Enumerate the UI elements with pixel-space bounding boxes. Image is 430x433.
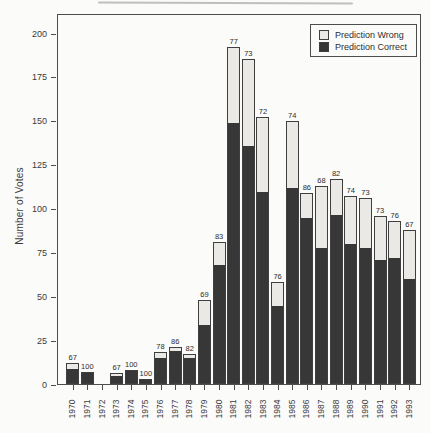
bar-stack <box>198 300 211 384</box>
x-tick <box>175 385 176 390</box>
x-tick <box>307 385 308 390</box>
bar-correct-segment <box>331 215 342 383</box>
x-tick <box>380 385 381 390</box>
y-tick-label: 25 <box>0 336 47 347</box>
y-tick <box>51 34 56 35</box>
x-tick-label: 1985 <box>286 391 299 427</box>
x-tick <box>292 385 293 390</box>
year-label: 1970 <box>68 400 78 419</box>
legend-item-wrong: Prediction Wrong <box>319 30 416 40</box>
bar-percent-label: 67 <box>396 220 422 229</box>
year-label: 1991 <box>375 400 385 419</box>
bar-stack <box>374 216 387 384</box>
bar-percent-label: 73 <box>352 188 378 197</box>
bar-percent-label: 67 <box>60 353 86 362</box>
x-tick-label: 1984 <box>271 391 284 427</box>
year-label: 1973 <box>112 400 122 419</box>
x-tick-label: 1975 <box>139 391 152 427</box>
bar-correct-segment <box>243 146 254 383</box>
x-tick <box>351 385 352 390</box>
bar-correct-segment <box>375 260 386 383</box>
x-tick-label: 1989 <box>344 391 357 427</box>
bar-correct-segment <box>360 248 371 383</box>
x-tick <box>278 385 279 390</box>
bar-stack <box>227 47 240 384</box>
bar-percent-label: 82 <box>323 169 349 178</box>
bar-percent-label: 73 <box>235 49 261 58</box>
y-tick-label: 150 <box>0 116 47 127</box>
x-tick-label: 1982 <box>242 391 255 427</box>
bar-percent-label: 100 <box>118 360 144 369</box>
bar-correct-segment <box>155 358 166 383</box>
x-tick <box>395 385 396 390</box>
year-label: 1971 <box>82 400 92 419</box>
x-tick-label: 1993 <box>403 391 416 427</box>
bar-correct-segment <box>184 358 195 383</box>
year-label: 1993 <box>404 400 414 419</box>
bar-stack <box>256 117 269 384</box>
bar-stack <box>344 196 357 384</box>
x-tick <box>146 385 147 390</box>
x-tick <box>321 385 322 390</box>
bar-correct-segment <box>345 244 356 383</box>
x-tick-label: 1970 <box>66 391 79 427</box>
year-label: 1990 <box>360 400 370 419</box>
bar-percent-label: 77 <box>221 37 247 46</box>
correct-swatch-icon <box>319 42 329 52</box>
bar-correct-segment <box>67 369 78 383</box>
bar-percent-label: 72 <box>250 107 276 116</box>
x-tick <box>409 385 410 390</box>
bar-correct-segment <box>257 192 268 383</box>
x-tick-label: 1971 <box>81 391 94 427</box>
figure: Number of Votes 0255075100125150175200 1… <box>0 0 430 433</box>
y-tick <box>51 341 56 342</box>
y-tick <box>51 297 56 298</box>
legend-item-correct: Prediction Correct <box>319 42 416 52</box>
bar-stack <box>403 230 416 384</box>
bar-stack <box>154 352 167 384</box>
bar-stack <box>81 372 94 384</box>
y-tick <box>51 165 56 166</box>
year-label: 1987 <box>316 400 326 419</box>
x-tick <box>161 385 162 390</box>
x-tick <box>336 385 337 390</box>
year-label: 1976 <box>156 400 166 419</box>
bar-correct-segment <box>82 373 93 383</box>
bar-correct-segment <box>214 265 225 383</box>
bar-percent-label: 100 <box>74 362 100 371</box>
year-label: 1974 <box>126 400 136 419</box>
bar-stack <box>330 179 343 384</box>
x-tick <box>87 385 88 390</box>
year-label: 1992 <box>390 400 400 419</box>
x-tick-label: 1980 <box>213 391 226 427</box>
x-tick-label: 1990 <box>359 391 372 427</box>
bar-correct-segment <box>272 306 283 383</box>
x-tick <box>234 385 235 390</box>
year-label: 1975 <box>141 400 151 419</box>
x-tick-label: 1988 <box>330 391 343 427</box>
x-tick <box>365 385 366 390</box>
year-label: 1986 <box>302 400 312 419</box>
x-tick-label: 1974 <box>125 391 138 427</box>
x-tick <box>102 385 103 390</box>
x-tick-label: 1991 <box>374 391 387 427</box>
x-tick-label: 1977 <box>169 391 182 427</box>
bar-stack <box>359 198 372 384</box>
bar-stack <box>388 221 401 384</box>
year-label: 1978 <box>185 400 195 419</box>
x-tick <box>117 385 118 390</box>
bar-correct-segment <box>199 325 210 383</box>
bar-correct-segment <box>389 258 400 383</box>
x-tick-label: 1973 <box>110 391 123 427</box>
year-label: 1984 <box>273 400 283 419</box>
y-tick-label: 125 <box>0 160 47 171</box>
x-tick-label: 1987 <box>315 391 328 427</box>
year-label: 1972 <box>97 400 107 419</box>
y-tick-label: 200 <box>0 29 47 40</box>
bar-correct-segment <box>404 279 415 383</box>
bar-correct-segment <box>170 351 181 383</box>
x-tick-label: 1972 <box>95 391 108 427</box>
x-tick <box>263 385 264 390</box>
x-tick <box>248 385 249 390</box>
legend-label-wrong: Prediction Wrong <box>335 30 404 40</box>
